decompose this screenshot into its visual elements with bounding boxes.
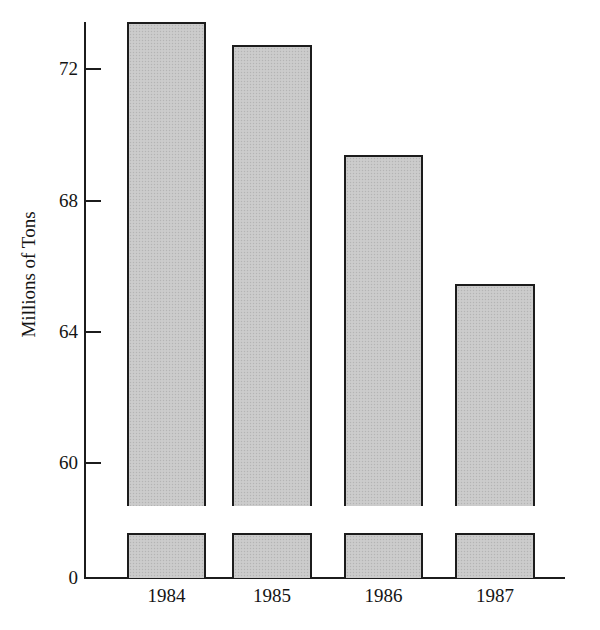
y-tick-mark-60 (86, 462, 101, 464)
bar-chart: 72 68 64 60 0 Millions of Tons 1984 1985… (0, 0, 600, 630)
y-tick-mark-72 (86, 68, 101, 70)
y-tick-label-68-wrap: 68 (34, 191, 78, 210)
bar-1984-stub (127, 533, 206, 578)
y-axis-title: Millions of Tons (19, 185, 38, 365)
y-tick-mark-68 (86, 200, 101, 202)
bar-1987-stub (455, 533, 535, 578)
y-tick-label-72: 72 (42, 59, 78, 78)
y-tick-label-0-wrap: 0 (34, 568, 78, 587)
x-tick-label-1985: 1985 (232, 586, 312, 606)
y-tick-label-0: 0 (42, 568, 78, 587)
y-axis-line (84, 22, 86, 579)
chart-title (0, 0, 600, 2)
bar-1987-upper (455, 284, 535, 506)
bar-1984-upper (127, 22, 206, 506)
y-tick-mark-64 (86, 331, 101, 333)
y-tick-label-72-wrap: 72 (34, 59, 78, 78)
bar-1985-stub (232, 533, 312, 578)
y-tick-label-60: 60 (42, 453, 78, 472)
y-tick-label-64: 64 (42, 322, 78, 341)
x-tick-label-1984: 1984 (127, 586, 206, 606)
bar-1986-upper (344, 155, 423, 506)
y-tick-label-68: 68 (42, 191, 78, 210)
y-tick-label-64-wrap: 64 (34, 322, 78, 341)
bar-1985-upper (232, 45, 312, 506)
x-tick-label-1987: 1987 (455, 586, 535, 606)
x-tick-label-1986: 1986 (344, 586, 423, 606)
bar-1986-stub (344, 533, 423, 578)
y-tick-label-60-wrap: 60 (34, 453, 78, 472)
